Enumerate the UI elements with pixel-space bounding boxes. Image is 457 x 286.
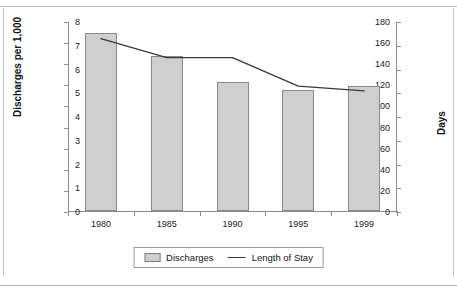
y2-tick-label: 7 [75,41,80,50]
x-tick-label: 1990 [222,220,242,229]
chart-legend: Discharges Length of Stay [133,247,324,268]
y2-tick-mark [397,117,401,118]
bar [85,33,117,211]
y-tick-label: 140 [375,60,390,69]
legend-label-discharges: Discharges [166,252,214,263]
x-tick-label: 1985 [157,220,177,229]
x-axis-line [68,211,398,212]
y-axis-line [68,22,69,213]
y-tick-label: 180 [375,18,390,27]
y-tick-label: 160 [375,39,390,48]
y-tick-label: 40 [380,165,390,174]
y-axis-title: Discharges per 1,000 [12,17,23,117]
legend-swatch-bar-icon [144,253,160,262]
y-tick-mark [64,170,68,171]
bar [348,86,380,211]
x-tick-mark [397,212,398,216]
y-tick-label: 60 [380,144,390,153]
legend-label-length-of-stay: Length of Stay [252,252,313,263]
x-tick-mark [200,212,201,216]
y2-tick-mark [397,165,401,166]
y-tick-mark [64,128,68,129]
y2-tick-label: 5 [75,89,80,98]
top-rule [0,6,457,7]
y-tick-label: 80 [380,123,390,132]
y2-tick-mark [397,93,401,94]
y-tick-mark [64,149,68,150]
bar [282,90,314,211]
y-tick-mark [64,22,68,23]
y2-tick-label: 0 [75,208,80,217]
y2-tick-mark [397,141,401,142]
y2-tick-label: 2 [75,160,80,169]
y2-tick-label: 4 [75,113,80,122]
y2-tick-mark [397,188,401,189]
y2-tick-label: 6 [75,65,80,74]
y-tick-mark [64,64,68,65]
y-tick-mark [64,43,68,44]
y-tick-mark [64,191,68,192]
y2-tick-label: 3 [75,136,80,145]
y2-tick-mark [397,46,401,47]
x-tick-label: 1995 [288,220,308,229]
legend-swatch-line-icon [228,257,246,258]
bar [217,82,249,211]
y2-tick-mark [397,22,401,23]
y-tick-label: 20 [380,186,390,195]
legend-item-length-of-stay: Length of Stay [228,252,313,263]
y-tick-mark [64,106,68,107]
y2-axis-title: Days [436,111,447,135]
x-tick-label: 1980 [91,220,111,229]
y2-tick-label: 1 [75,184,80,193]
bar [151,56,183,211]
x-tick-mark [68,212,69,216]
x-tick-mark [134,212,135,216]
y2-tick-mark [397,70,401,71]
y-tick-mark [64,85,68,86]
chart-figure: Discharges per 1,000 Days 02040608010012… [0,0,457,286]
y-tick-label: 0 [385,208,390,217]
x-tick-mark [331,212,332,216]
plot-area: 020406080100120140160180 012345678 19801… [68,22,397,212]
x-tick-mark [265,212,266,216]
x-tick-label: 1999 [354,220,374,229]
y2-tick-label: 8 [75,18,80,27]
legend-item-discharges: Discharges [144,252,214,263]
